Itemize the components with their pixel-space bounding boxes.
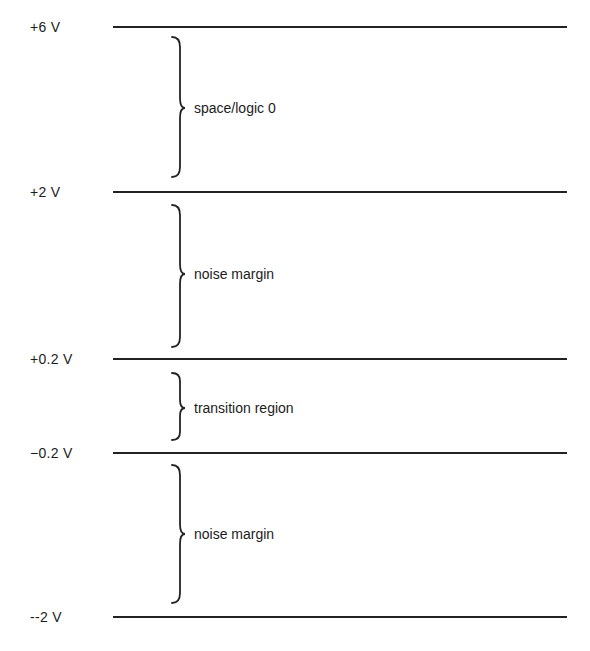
region-label-noise-margin-lower: noise margin <box>194 526 274 542</box>
braces <box>0 0 590 651</box>
brace-icon <box>172 373 185 440</box>
brace-icon <box>172 205 185 347</box>
brace-icon <box>172 37 185 177</box>
brace-icon <box>172 465 185 603</box>
region-label-noise-margin-upper: noise margin <box>194 266 274 282</box>
region-label-space-logic-0: space/logic 0 <box>194 100 276 116</box>
region-label-transition-region: transition region <box>194 400 294 416</box>
